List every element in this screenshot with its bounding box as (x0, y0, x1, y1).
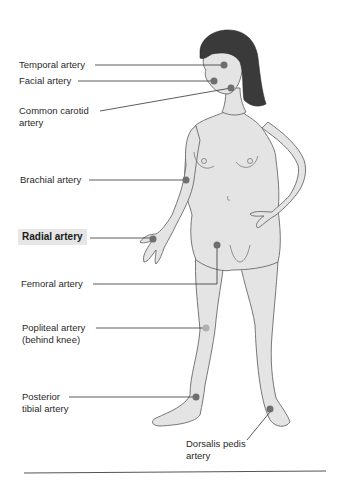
pulse-dot-radial (150, 236, 157, 243)
pulse-dot-posterior-tibial (193, 394, 200, 401)
pulse-dot-popliteal (203, 325, 210, 332)
pulse-dot-dorsalis-pedis (267, 406, 274, 413)
pulse-dot-femoral (214, 242, 221, 249)
label-facial-artery: Facial artery (19, 75, 71, 87)
bottom-rule (24, 471, 326, 473)
label-femoral-artery: Femoral artery (21, 278, 83, 290)
label-radial-artery-highlighted: Radial artery (18, 229, 87, 245)
label-posterior-tibial-artery: Posterior tibial artery (22, 391, 68, 415)
label-common-carotid-artery: Common carotid artery (19, 105, 89, 129)
body-figure (140, 43, 306, 426)
label-dorsalis-pedis-artery: Dorsalis pedis artery (186, 438, 246, 462)
pulse-dot-facial (211, 78, 218, 85)
pulse-dot-temporal (221, 62, 228, 69)
pulse-dot-brachial (183, 177, 190, 184)
label-popliteal-artery: Popliteal artery (behind knee) (22, 322, 85, 346)
label-brachial-artery: Brachial artery (20, 174, 81, 186)
pulse-dot-carotid (228, 85, 235, 92)
label-temporal-artery: Temporal artery (19, 59, 85, 71)
